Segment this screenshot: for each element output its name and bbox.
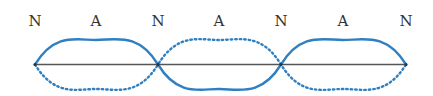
node-dot-4 — [404, 63, 407, 66]
node-dot-3 — [279, 63, 282, 66]
node-dot-2 — [156, 63, 159, 66]
standing-wave-graphic — [0, 0, 433, 96]
node-dot-1 — [33, 63, 36, 66]
